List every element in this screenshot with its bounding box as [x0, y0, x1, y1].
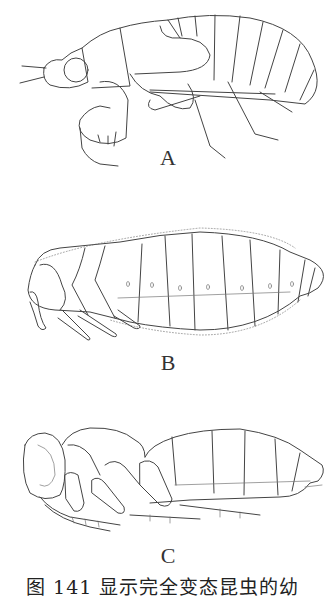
figure-c: C	[0, 385, 332, 565]
figure-caption: 图 141 显示完全变态昆虫的幼	[26, 572, 299, 599]
figure-label-b: B	[148, 350, 188, 376]
figure-b: B	[0, 190, 332, 385]
figure-label-c: C	[148, 543, 188, 569]
exarate-pupa-illustration	[0, 385, 332, 565]
figure-label-a: A	[148, 145, 188, 171]
figure-a: A	[0, 0, 332, 180]
